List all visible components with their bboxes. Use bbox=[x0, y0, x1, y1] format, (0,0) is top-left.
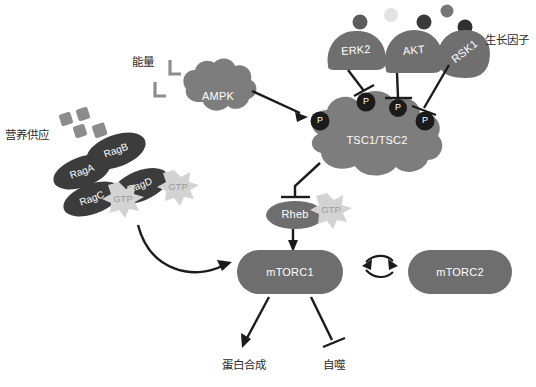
phosphate-ampk-target: P bbox=[311, 112, 330, 131]
phosphate-text-2: P bbox=[363, 96, 369, 106]
mtor-pathway-diagram: ERK2 AKT RSK1 生长因子 能量 AMPK 营养供应 RagB bbox=[0, 0, 536, 387]
ligand-dot-1 bbox=[353, 15, 368, 30]
node-mtorc2[interactable]: mTORC2 bbox=[408, 250, 512, 294]
ligand-dot-3 bbox=[417, 15, 432, 30]
node-rheb[interactable]: Rheb bbox=[266, 201, 324, 229]
gtp-label-3: GTP bbox=[321, 204, 341, 215]
phosphate-text-3: P bbox=[395, 102, 401, 112]
growth-factors-label: 生长因子 bbox=[485, 33, 529, 47]
ligand-dot-2 bbox=[384, 8, 398, 22]
akt-label: AKT bbox=[402, 43, 425, 57]
phosphate-akt-target: P bbox=[389, 99, 407, 117]
rheb-label: Rheb bbox=[281, 208, 308, 220]
protein-synthesis-label: 蛋白合成 bbox=[222, 358, 267, 372]
tsc-label: TSC1/TSC2 bbox=[346, 134, 407, 146]
autophagy-label: 自噬 bbox=[323, 358, 346, 372]
energy-label: 能量 bbox=[132, 55, 154, 69]
node-mtorc1[interactable]: mTORC1 bbox=[237, 250, 343, 294]
erk2-label: ERK2 bbox=[341, 43, 371, 57]
edge-akt-line bbox=[397, 73, 398, 97]
phosphate-text-4: P bbox=[422, 115, 428, 125]
nutrient-supply-label: 营养供应 bbox=[5, 128, 49, 142]
mtorc2-label: mTORC2 bbox=[436, 266, 483, 278]
gtp-label-2: GTP bbox=[168, 181, 188, 192]
ligand-dot-4 bbox=[441, 5, 454, 18]
mtorc1-label: mTORC1 bbox=[266, 266, 313, 278]
phosphate-text-1: P bbox=[317, 115, 323, 125]
phosphate-erk2-target: P bbox=[357, 93, 376, 112]
ampk-label: AMPK bbox=[202, 90, 234, 102]
gtp-label-1: GTP bbox=[113, 193, 133, 204]
